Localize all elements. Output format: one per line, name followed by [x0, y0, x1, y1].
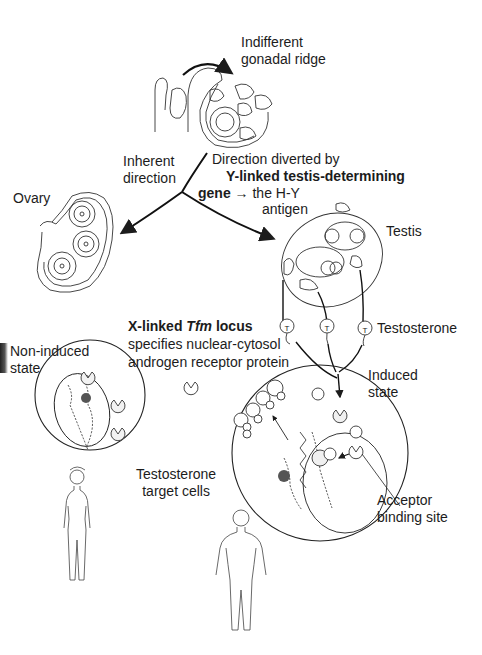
label-x-linked: X-linked: [128, 318, 186, 334]
label-line: Acceptor: [377, 492, 448, 509]
receptor-hormone-complexes: [312, 388, 363, 466]
label-tfm-locus: X-linked Tfm locus: [128, 318, 253, 335]
arrow-glyph: →: [235, 185, 249, 201]
label-inherent-direction: Inherent direction: [123, 153, 176, 187]
non-induced-receptors: [81, 372, 125, 441]
female-figure: [64, 467, 90, 580]
label-y-linked-gene: Y-linked testis-determining: [226, 168, 405, 185]
binding-arrow: [339, 454, 349, 458]
label-line: Inherent: [123, 153, 176, 170]
label-line: direction: [123, 170, 176, 187]
label-line: binding site: [377, 509, 448, 526]
label-line: state: [10, 360, 89, 377]
male-figure: [216, 510, 266, 630]
label-line: target cells: [136, 483, 216, 500]
testosterone-pathways: [283, 270, 363, 397]
free-receptor-protein: [184, 382, 198, 395]
label-induced-state: Induced state: [368, 367, 418, 401]
hormone-symbol: T: [325, 324, 330, 333]
label-direction-diverted: Direction diverted by: [212, 151, 340, 168]
label-tfm: Tfm: [186, 318, 212, 334]
label-line: gonadal ridge: [241, 51, 326, 68]
ovary-arrow: [123, 192, 182, 232]
label-testosterone: Testosterone: [377, 320, 457, 337]
page-edge-mark: [0, 343, 8, 373]
label-ovary: Ovary: [13, 190, 50, 207]
label-line: Direction diverted by: [212, 151, 340, 168]
label-line: state: [368, 384, 418, 401]
hormone-symbol: T: [363, 326, 368, 335]
label-line: Induced: [368, 367, 418, 384]
label-tfm-line2: specifies nuclear-cytosol: [128, 336, 281, 353]
label-acceptor-binding-site: Acceptor binding site: [377, 492, 448, 526]
label-locus: locus: [212, 318, 252, 334]
diagram-canvas: T T T: [0, 0, 482, 655]
label-target-cells: Testosterone target cells: [136, 466, 216, 500]
label-non-induced-state: Non-induced state: [10, 343, 89, 377]
hormone-symbol: T: [285, 324, 290, 333]
label-antigen: antigen: [262, 201, 308, 218]
label-tfm-line3: androgen receptor protein: [128, 354, 289, 371]
label-gonadal-ridge: Indifferent gonadal ridge: [241, 34, 326, 68]
label-testis: Testis: [386, 223, 422, 240]
ovary-illustration: [37, 192, 113, 292]
label-gene-hy: gene → the H-Y: [198, 185, 300, 202]
label-line: Non-induced: [10, 343, 89, 360]
label-gene: gene: [198, 185, 231, 201]
gonadal-ridge-illustration: [155, 68, 272, 148]
label-hy: the H-Y: [252, 185, 299, 201]
ridge-development-arrow: [183, 64, 230, 75]
label-line: Indifferent: [241, 34, 326, 51]
label-line: Testosterone: [136, 466, 216, 483]
